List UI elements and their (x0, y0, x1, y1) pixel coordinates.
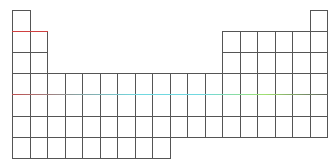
grid-cell (135, 116, 153, 138)
grid-cell (292, 73, 311, 95)
grid-cell (310, 10, 328, 32)
grid-cell (187, 116, 206, 138)
grid-cell (240, 52, 258, 74)
grid-cell (257, 94, 276, 117)
grid-cell (240, 73, 258, 95)
grid-cell (30, 52, 48, 74)
grid-cell (30, 137, 48, 159)
grid-cell (222, 116, 241, 138)
grid-cell (30, 73, 48, 95)
grid-cell (12, 116, 31, 138)
grid-cell (152, 73, 171, 95)
grid-cell (47, 137, 66, 159)
grid-cell (222, 52, 241, 74)
grid-cell (82, 73, 101, 95)
grid-cell (82, 137, 101, 159)
grid-cell (257, 116, 276, 138)
grid-cell (275, 52, 293, 74)
grid-cell (117, 116, 136, 138)
grid-cell (310, 31, 328, 53)
grid-cell (292, 52, 311, 74)
grid-cell (222, 73, 241, 95)
grid-cell (257, 52, 276, 74)
grid-cell (310, 73, 328, 95)
grid-cell (222, 94, 241, 117)
grid-cell (152, 137, 171, 159)
grid-cell (12, 94, 31, 117)
row2-top-accent (12, 31, 48, 32)
grid-cell (12, 137, 31, 159)
grid-cell (65, 116, 83, 138)
grid-cell (47, 94, 66, 117)
grid-cell (12, 31, 31, 53)
grid-cell (12, 73, 31, 95)
grid-cell (152, 116, 171, 138)
grid-cell (47, 73, 66, 95)
grid-cell (257, 31, 276, 53)
grid-cell (12, 52, 31, 74)
grid-cell (117, 137, 136, 159)
grid-cell (100, 94, 118, 117)
grid-cell (135, 73, 153, 95)
grid-cell (135, 94, 153, 117)
grid-cell (275, 94, 293, 117)
grid-cell (170, 94, 188, 117)
grid-cell (117, 73, 136, 95)
grid-cell (240, 94, 258, 117)
grid-cell (292, 94, 311, 117)
grid-cell (292, 31, 311, 53)
grid-cell (205, 94, 223, 117)
grid-cell (187, 94, 206, 117)
grid-cell (205, 73, 223, 95)
grid-cell (170, 73, 188, 95)
grid-cell (310, 94, 328, 117)
grid-cell (82, 94, 101, 117)
grid-cell (30, 94, 48, 117)
grid-cell (135, 137, 153, 159)
grid-cell (117, 94, 136, 117)
grid-cell (275, 31, 293, 53)
grid-cell (205, 116, 223, 138)
grid-cell (30, 31, 48, 53)
grid-cell (310, 116, 328, 138)
grid-cell (170, 116, 188, 138)
grid-cell (30, 116, 48, 138)
grid-cell (100, 116, 118, 138)
grid-cell (187, 73, 206, 95)
grid-cell (100, 73, 118, 95)
grid-cell (222, 31, 241, 53)
grid-cell (310, 52, 328, 74)
grid-cell (257, 73, 276, 95)
grid-cell (275, 73, 293, 95)
grid-cell (82, 116, 101, 138)
grid-cell (292, 116, 311, 138)
grid-cell (100, 137, 118, 159)
grid-cell (12, 10, 31, 32)
row5-top-accent (12, 94, 328, 95)
grid-cell (65, 73, 83, 95)
grid-cell (240, 116, 258, 138)
periodic-table-grid (0, 0, 332, 164)
grid-cell (152, 94, 171, 117)
grid-cell (275, 116, 293, 138)
grid-cell (47, 116, 66, 138)
grid-cell (65, 137, 83, 159)
grid-cell (65, 94, 83, 117)
grid-cell (240, 31, 258, 53)
